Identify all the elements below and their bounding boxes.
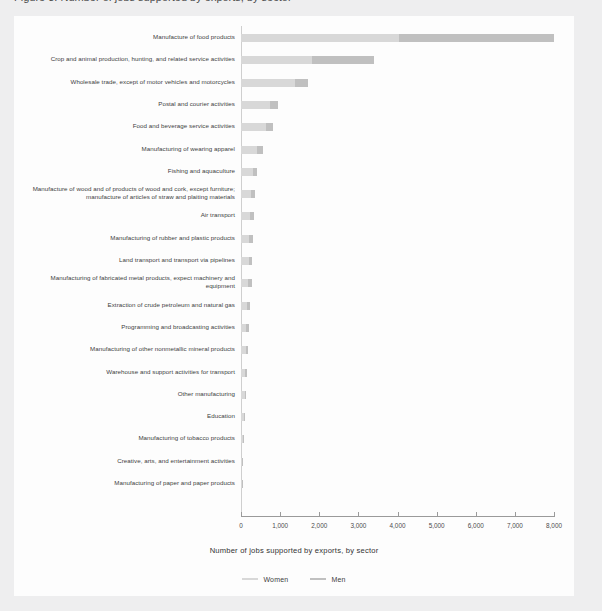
bar-segment-women [241, 257, 249, 265]
bar-segment-men [295, 79, 308, 87]
x-axis-tick-label: 8,000 [534, 522, 574, 529]
x-axis-title: Number of jobs supported by exports, by … [14, 546, 574, 555]
y-axis-category-label: Manufacturing of tobacco products [24, 434, 235, 441]
x-axis-tick-label: 0 [221, 522, 261, 529]
y-axis-category-label: Creative, arts, and entertainment activi… [24, 457, 235, 464]
chart-legend: WomenMen [14, 575, 574, 583]
y-axis-category-label: Education [24, 412, 235, 419]
bar-segment-men [243, 435, 244, 443]
y-axis-category-label: Other manufacturing [24, 390, 235, 397]
bar-segment-men [249, 257, 252, 265]
bar-segment-men [246, 324, 249, 332]
y-axis-category-label: Manufacture of wood and of products of w… [24, 185, 235, 200]
bar-segment-women [241, 212, 250, 220]
y-axis-category-label: Wholesale trade, except of motor vehicle… [24, 78, 235, 85]
x-axis-tick-label: 5,000 [417, 522, 457, 529]
legend-swatch-women [242, 578, 258, 580]
y-axis-category-label: Food and beverage service activities [24, 122, 235, 129]
x-axis-tick [241, 512, 242, 516]
bar-segment-men [248, 279, 251, 287]
y-axis-category-label: Crop and animal production, hunting, and… [24, 55, 235, 62]
x-axis-tick-label: 1,000 [260, 522, 300, 529]
bar-segment-women [241, 79, 295, 87]
bar-segment-men [247, 302, 250, 310]
bar-segment-men [399, 34, 554, 42]
y-axis-category-label: Manufacturing of fabricated metal produc… [24, 274, 235, 289]
y-axis-category-label: Air transport [24, 211, 235, 218]
y-axis-category-label: Land transport and transport via pipelin… [24, 256, 235, 263]
bar-segment-women [241, 123, 266, 131]
y-axis-category-label: Manufacturing of wearing apparel [24, 145, 235, 152]
x-axis-tick [398, 512, 399, 516]
bar-segment-men [312, 56, 374, 64]
bar-segment-women [241, 279, 248, 287]
bar-segment-men [245, 369, 247, 377]
legend-swatch-men [310, 578, 326, 580]
y-axis-category-label: Postal and courier activities [24, 100, 235, 107]
bar-segment-women [241, 101, 270, 109]
y-axis-category-label: Programming and broadcasting activities [24, 323, 235, 330]
y-axis-category-label: Manufacture of food products [24, 33, 235, 40]
legend-label: Women [263, 576, 288, 583]
x-axis-tick-label: 6,000 [456, 522, 496, 529]
bar-segment-men [245, 391, 247, 399]
x-axis-tick [280, 512, 281, 516]
x-axis-tick-label: 2,000 [299, 522, 339, 529]
clipped-figure-title: Figure 3. Number of jobs supported by ex… [0, 0, 602, 10]
bar-segment-men [242, 480, 243, 488]
chart-card: Manufacture of food productsCrop and ani… [14, 16, 574, 596]
bar-segment-men [266, 123, 273, 131]
x-axis-tick [437, 512, 438, 516]
y-axis-category-label: Extraction of crude petroleum and natura… [24, 301, 235, 308]
bar-segment-men [244, 413, 245, 421]
y-axis-category-label: Manufacturing of rubber and plastic prod… [24, 234, 235, 241]
legend-item-men[interactable]: Men [310, 575, 345, 583]
y-axis-category-label: Manufacturing of other nonmetallic miner… [24, 345, 235, 352]
y-axis-category-label: Manufacturing of paper and paper product… [24, 479, 235, 486]
y-axis-category-label: Warehouse and support activities for tra… [24, 368, 235, 375]
x-axis-tick-label: 3,000 [338, 522, 378, 529]
bar-segment-women [241, 56, 312, 64]
bar-segment-men [270, 101, 278, 109]
bar-segment-women [241, 34, 399, 42]
bar-segment-men [246, 346, 248, 354]
x-axis-tick [515, 512, 516, 516]
x-axis-tick [476, 512, 477, 516]
bar-chart: Manufacture of food productsCrop and ani… [14, 16, 574, 596]
bar-segment-women [241, 146, 257, 154]
bar-segment-men [250, 212, 254, 220]
bar-segment-women [241, 235, 249, 243]
legend-label: Men [331, 576, 345, 583]
x-axis-tick-label: 4,000 [378, 522, 418, 529]
x-axis-tick [358, 512, 359, 516]
x-axis-tick [319, 512, 320, 516]
bar-segment-women [241, 168, 253, 176]
bar-segment-men [253, 168, 257, 176]
bar-segment-men [251, 190, 255, 198]
figure-title-text: Figure 3. Number of jobs supported by ex… [14, 0, 292, 3]
y-axis-category-label: Fishing and aquaculture [24, 167, 235, 174]
bar-segment-men [242, 458, 243, 466]
x-axis-tick [554, 512, 555, 516]
x-axis-tick-label: 7,000 [495, 522, 535, 529]
bar-segment-men [249, 235, 253, 243]
x-axis-line [241, 516, 555, 517]
bar-segment-men [257, 146, 263, 154]
bar-segment-women [241, 190, 251, 198]
legend-item-women[interactable]: Women [242, 575, 288, 583]
